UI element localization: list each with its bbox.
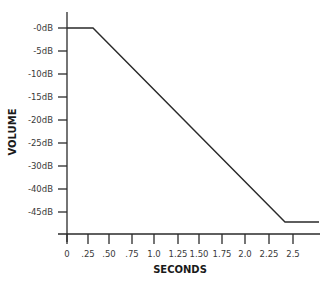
axes <box>58 12 320 242</box>
y-tick-label: -20dB <box>28 115 53 125</box>
y-tick-label: -5dB <box>33 46 53 56</box>
x-tick-label: 2.0 <box>238 249 252 259</box>
x-tick-label: 1.75 <box>213 249 232 259</box>
x-axis-title: SECONDS <box>153 264 207 275</box>
x-tick-label: 1.25 <box>169 249 188 259</box>
x-ticks: 0.25.50.751.01.251.501.752.02.252.5 <box>64 234 299 259</box>
y-tick-label: -10dB <box>28 69 53 79</box>
x-tick-label: 0 <box>64 249 69 259</box>
y-tick-label: -0dB <box>33 23 53 33</box>
y-tick-label: -40dB <box>28 184 53 194</box>
x-tick-label: .25 <box>81 249 95 259</box>
x-tick-label: .50 <box>102 249 116 259</box>
x-tick-label: 2.25 <box>260 249 279 259</box>
x-tick-label: .75 <box>125 249 139 259</box>
y-tick-label: -15dB <box>28 92 53 102</box>
x-tick-label: 1.50 <box>190 249 209 259</box>
y-axis-title: VOLUME <box>7 108 18 155</box>
x-tick-label: 1.0 <box>147 249 161 259</box>
x-tick-label: 2.5 <box>286 249 300 259</box>
volume-envelope-line <box>67 28 319 222</box>
y-tick-label: -30dB <box>28 161 53 171</box>
y-tick-label: -25dB <box>28 138 53 148</box>
volume-fade-chart: -0dB-5dB-10dB-15dB-20dB-25dB-30dB-40dB-4… <box>0 0 331 282</box>
y-ticks: -0dB-5dB-10dB-15dB-20dB-25dB-30dB-40dB-4… <box>28 23 67 217</box>
y-tick-label: -45dB <box>28 207 53 217</box>
